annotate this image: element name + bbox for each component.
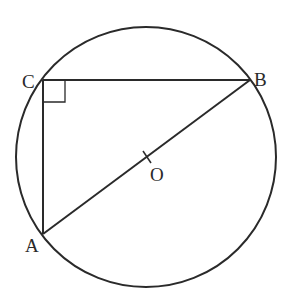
label-point-o: O bbox=[150, 164, 164, 185]
label-point-b: B bbox=[254, 69, 267, 90]
label-point-c: C bbox=[22, 71, 35, 92]
label-point-a: A bbox=[25, 235, 39, 256]
geometry-diagram: C B A O bbox=[0, 0, 291, 308]
center-tick-mark bbox=[143, 151, 151, 163]
right-angle-marker bbox=[43, 80, 65, 102]
